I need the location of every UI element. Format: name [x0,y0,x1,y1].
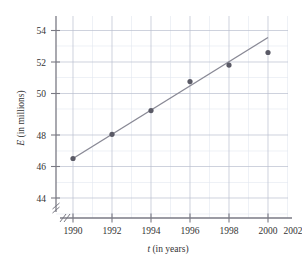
x-axis-title: t (in years) [147,244,188,255]
grid-major-horizontal [56,31,288,199]
y-tick-label: 48 [37,131,47,141]
x-tick-label: 2002 [284,226,303,236]
data-point [265,50,270,55]
data-point [70,156,75,161]
scatter-plot-svg: 54 52 50 48 46 44 1990 1992 1994 1996 19… [0,0,302,264]
x-tick-label: 1994 [142,226,161,236]
y-axis-title: E (in millions) [16,90,27,146]
x-axis-title-rest: (in years) [150,244,189,255]
x-tick-label: 1992 [103,226,122,236]
y-tick-label: 52 [37,58,47,68]
x-tick-label: 2000 [259,226,278,236]
x-tick-label: 1990 [64,226,83,236]
y-tick-label: 44 [37,194,47,204]
svg-text:t (in years): t (in years) [147,244,188,255]
data-point [226,63,231,68]
x-tick-labels: 1990 1992 1994 1996 1998 2000 2002 [64,226,303,236]
x-tick-label: 1998 [220,226,239,236]
svg-text:E (in millions): E (in millions) [16,90,27,146]
y-tick-labels: 54 52 50 48 46 44 [37,26,47,204]
x-tick-label: 1996 [181,226,200,236]
data-point [148,108,153,113]
y-tick-label: 50 [37,89,47,99]
chart-figure: 54 52 50 48 46 44 1990 1992 1994 1996 19… [0,0,302,264]
y-tick-label: 46 [37,162,47,172]
y-tick-label: 54 [37,26,47,36]
grid-minor-horizontal [56,46,288,214]
data-point [109,132,114,137]
data-point [187,79,192,84]
y-axis-title-rest: (in millions) [16,90,27,140]
